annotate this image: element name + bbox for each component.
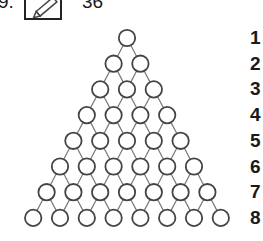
connector-line xyxy=(50,174,56,185)
empty-circle[interactable] xyxy=(159,210,175,226)
connector-line xyxy=(171,199,177,210)
connector-line xyxy=(77,199,83,210)
connector-line xyxy=(131,199,137,210)
empty-circle[interactable] xyxy=(92,184,108,200)
connector-line xyxy=(184,148,190,159)
empty-circle[interactable] xyxy=(132,158,148,174)
empty-circle[interactable] xyxy=(92,133,108,149)
empty-circle[interactable] xyxy=(132,210,148,226)
connector-line xyxy=(91,199,97,210)
connector-line xyxy=(117,71,123,82)
connector-line xyxy=(131,71,137,82)
connector-line xyxy=(50,199,56,210)
connector-line xyxy=(104,71,110,82)
connector-line xyxy=(117,174,123,185)
empty-circle[interactable] xyxy=(52,210,68,226)
empty-circle[interactable] xyxy=(79,107,95,123)
empty-circle[interactable] xyxy=(52,158,68,174)
connector-line xyxy=(64,148,70,159)
empty-circle[interactable] xyxy=(146,81,162,97)
connector-line xyxy=(144,122,150,133)
row-label: 5 xyxy=(250,131,261,151)
empty-circle[interactable] xyxy=(132,107,148,123)
connector-line xyxy=(91,174,97,185)
empty-circle[interactable] xyxy=(105,107,121,123)
empty-circle[interactable] xyxy=(132,56,148,72)
connector-line xyxy=(158,122,164,133)
row-label: 6 xyxy=(250,157,261,177)
connector-line xyxy=(171,174,177,185)
empty-circle[interactable] xyxy=(65,184,81,200)
connector-line xyxy=(131,45,137,56)
empty-circle[interactable] xyxy=(119,133,135,149)
connector-line xyxy=(104,174,110,185)
connector-line xyxy=(144,174,150,185)
empty-circle[interactable] xyxy=(186,158,202,174)
connector-line xyxy=(131,174,137,185)
connector-line xyxy=(171,122,177,133)
row-label: 7 xyxy=(250,182,261,202)
row-label: 1 xyxy=(250,28,261,48)
empty-circle[interactable] xyxy=(105,210,121,226)
empty-circle[interactable] xyxy=(146,133,162,149)
connector-line xyxy=(77,174,83,185)
row-label: 3 xyxy=(250,79,261,99)
connector-line xyxy=(104,199,110,210)
empty-circle[interactable] xyxy=(105,56,121,72)
connector-line xyxy=(131,122,137,133)
connector-line xyxy=(144,97,150,108)
connector-line xyxy=(104,122,110,133)
connector-line xyxy=(117,199,123,210)
connector-line xyxy=(117,45,123,56)
circle-triangle xyxy=(0,0,263,241)
empty-circle[interactable] xyxy=(199,184,215,200)
connector-line xyxy=(158,97,164,108)
row-label: 8 xyxy=(250,208,261,228)
connector-line xyxy=(171,148,177,159)
connector-line xyxy=(211,199,217,210)
empty-circle[interactable] xyxy=(172,133,188,149)
connector-line xyxy=(104,97,110,108)
empty-circle[interactable] xyxy=(172,184,188,200)
empty-circle[interactable] xyxy=(119,81,135,97)
connector-line xyxy=(131,97,137,108)
connector-line xyxy=(77,148,83,159)
connector-line xyxy=(64,199,70,210)
empty-circle[interactable] xyxy=(159,158,175,174)
connector-line xyxy=(158,199,164,210)
connector-line xyxy=(158,174,164,185)
empty-circle[interactable] xyxy=(65,133,81,149)
connector-line xyxy=(198,199,204,210)
empty-circle[interactable] xyxy=(38,184,54,200)
row-label: 4 xyxy=(250,105,261,125)
connector-line xyxy=(184,199,190,210)
connector-line xyxy=(117,122,123,133)
empty-circle[interactable] xyxy=(213,210,229,226)
connector-line xyxy=(144,199,150,210)
connector-line xyxy=(158,148,164,159)
connector-line xyxy=(37,199,43,210)
empty-circle[interactable] xyxy=(186,210,202,226)
connector-line xyxy=(144,148,150,159)
empty-circle[interactable] xyxy=(92,81,108,97)
connector-line xyxy=(117,97,123,108)
connector-line xyxy=(131,148,137,159)
connector-line xyxy=(64,174,70,185)
empty-circle[interactable] xyxy=(146,184,162,200)
connector-line xyxy=(198,174,204,185)
connector-line xyxy=(91,148,97,159)
connector-line xyxy=(104,148,110,159)
empty-circle[interactable] xyxy=(79,210,95,226)
empty-circle[interactable] xyxy=(79,158,95,174)
connector-line xyxy=(77,122,83,133)
connector-line xyxy=(117,148,123,159)
empty-circle[interactable] xyxy=(105,158,121,174)
connector-line xyxy=(184,174,190,185)
connector-line xyxy=(144,71,150,82)
connector-line xyxy=(91,122,97,133)
empty-circle[interactable] xyxy=(25,210,41,226)
empty-circle[interactable] xyxy=(119,184,135,200)
empty-circle[interactable] xyxy=(159,107,175,123)
row-label: 2 xyxy=(250,54,261,74)
empty-circle[interactable] xyxy=(119,30,135,46)
